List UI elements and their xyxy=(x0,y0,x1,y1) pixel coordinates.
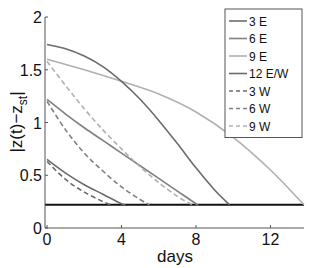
x-tick-label: 4 xyxy=(117,231,126,248)
legend-label: 6 E xyxy=(249,32,267,46)
line-chart: 00.511.5204812 3 E6 E9 E12 E/W3 W6 W9 W … xyxy=(0,0,309,268)
legend-label: 3 W xyxy=(249,85,271,99)
legend-label: 12 E/W xyxy=(249,67,289,81)
series-9-w xyxy=(47,61,192,204)
legend-label: 6 W xyxy=(249,102,271,116)
x-axis-label: days xyxy=(157,247,193,266)
y-tick-label: 0 xyxy=(33,220,42,237)
series-3-w xyxy=(47,162,110,205)
legend-label: 3 E xyxy=(249,15,267,29)
legend: 3 E6 E9 E12 E/W3 W6 W9 W xyxy=(225,9,302,138)
series-3-e xyxy=(47,159,125,204)
y-tick-label: 1 xyxy=(33,115,42,132)
svg-text:|z(t)−zst|: |z(t)−zst| xyxy=(7,91,30,152)
y-tick-label: 1.5 xyxy=(20,62,42,79)
y-axis-label: |z(t)−zst| xyxy=(7,91,30,152)
series-6-e xyxy=(47,99,198,205)
y-tick-label: 2 xyxy=(33,9,42,26)
legend-label: 9 E xyxy=(249,50,267,64)
series-6-w xyxy=(47,101,149,204)
y-tick-label: 0.5 xyxy=(20,167,42,184)
y-axis-label-end: | xyxy=(7,91,26,95)
x-tick-label: 8 xyxy=(192,231,201,248)
x-tick-label: 12 xyxy=(262,231,280,248)
y-axis-label-main: |z(t)−z xyxy=(7,105,26,152)
x-tick-label: 0 xyxy=(43,231,52,248)
legend-label: 9 W xyxy=(249,120,271,134)
series-12-e-w xyxy=(47,44,230,204)
